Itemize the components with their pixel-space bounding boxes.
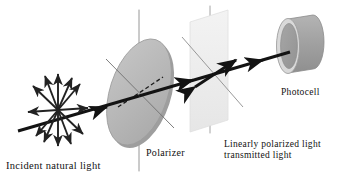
label-transmitted-line1: Linearly polarized light — [224, 139, 321, 150]
photocell-face — [281, 24, 298, 69]
burst-ray-7 — [36, 110, 58, 136]
burst-ray-11 — [58, 78, 72, 110]
photocell-cylinder — [277, 15, 325, 74]
beam-arrowhead-3 — [252, 60, 263, 63]
burst-ray-12 — [44, 110, 58, 142]
label-transmitted-light: Linearly polarized light transmitted lig… — [224, 139, 321, 160]
unpolarized-light-burst — [28, 74, 88, 146]
label-incident-natural-light: Incident natural light — [6, 160, 101, 172]
polarization-plane — [182, 10, 243, 132]
label-polarizer: Polarizer — [146, 147, 185, 158]
burst-ray-6 — [58, 108, 88, 110]
polarization-diagram: Incident natural light Polarizer Linearl… — [0, 0, 347, 180]
label-transmitted-line2: transmitted light — [224, 150, 321, 161]
label-photocell: Photocell — [281, 87, 320, 98]
burst-ray-5 — [28, 110, 58, 112]
burst-ray-8 — [58, 84, 80, 110]
